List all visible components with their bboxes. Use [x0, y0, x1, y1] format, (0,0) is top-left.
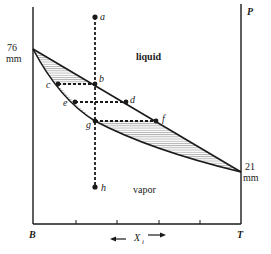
point-d	[124, 100, 129, 105]
label-a: a	[100, 11, 105, 22]
left-pressure-unit: mm	[6, 53, 22, 64]
arrow-right-icon	[160, 233, 166, 238]
arrow-left-icon	[110, 237, 116, 242]
label-d: d	[130, 94, 136, 105]
component-B-label: B	[28, 229, 36, 240]
point-h	[92, 184, 97, 189]
label-h: h	[101, 182, 106, 193]
point-f	[154, 119, 159, 124]
label-b: b	[99, 73, 104, 84]
label-g: g	[86, 119, 91, 130]
right-pressure-unit: mm	[243, 172, 259, 183]
label-e: e	[63, 97, 68, 108]
region-liquid-label: liquid	[136, 51, 161, 62]
phase-diagram: a b c d e f g h liquid vapor 76 mm 21 mm…	[0, 0, 271, 254]
point-c	[56, 82, 61, 87]
label-c: c	[46, 79, 51, 90]
x-axis-subscript: i	[142, 238, 144, 246]
point-g	[93, 119, 98, 124]
right-pressure-value: 21	[245, 161, 255, 172]
point-b	[93, 82, 98, 87]
pressure-axis-label: P	[247, 6, 254, 17]
liquid-line	[33, 49, 241, 172]
point-e	[73, 100, 78, 105]
component-T-label: T	[237, 229, 244, 240]
composition-axis-label: X i	[110, 232, 166, 246]
region-vapor-label: vapor	[133, 184, 156, 195]
x-axis-label: X	[133, 232, 141, 243]
label-f: f	[162, 113, 166, 124]
left-pressure-value: 76	[7, 42, 17, 53]
point-a	[92, 14, 97, 19]
